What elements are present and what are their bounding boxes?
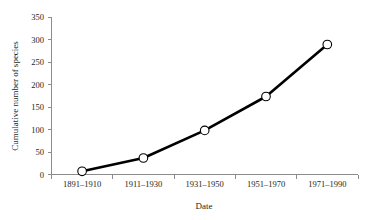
data-point-markers	[78, 40, 332, 175]
y-axis-ticks	[48, 17, 52, 175]
data-point-marker	[78, 167, 87, 176]
y-tick-label: 0	[40, 170, 44, 180]
data-point-marker	[139, 154, 148, 163]
data-point-marker	[200, 126, 209, 135]
x-tick-label: 1951–1970	[247, 179, 285, 189]
x-tick-label: 1931–1950	[186, 179, 224, 189]
line-chart: 0 50 100 150 200 250 300 350 1891–1910 1…	[0, 0, 367, 220]
data-point-marker	[262, 92, 271, 101]
x-axis-title: Date	[196, 201, 213, 211]
x-axis-tick-labels: 1891–1910 1911–1930 1931–1950 1951–1970 …	[63, 179, 346, 189]
x-tick-label: 1971–1990	[308, 179, 346, 189]
y-tick-label: 50	[36, 147, 45, 157]
y-tick-label: 350	[31, 12, 44, 22]
y-tick-label: 300	[31, 35, 44, 45]
y-tick-label: 100	[31, 125, 44, 135]
y-tick-label: 250	[31, 57, 44, 67]
x-tick-label: 1891–1910	[63, 179, 101, 189]
x-tick-label: 1911–1930	[124, 179, 162, 189]
series-line-cumulative-species	[82, 45, 327, 172]
y-tick-label: 200	[31, 80, 44, 90]
chart-figure: 0 50 100 150 200 250 300 350 1891–1910 1…	[0, 0, 367, 220]
y-axis-tick-labels: 0 50 100 150 200 250 300 350	[31, 12, 44, 180]
y-tick-label: 150	[31, 102, 44, 112]
y-axis-title: Cumulative number of species	[10, 41, 20, 151]
data-point-marker	[323, 40, 332, 49]
